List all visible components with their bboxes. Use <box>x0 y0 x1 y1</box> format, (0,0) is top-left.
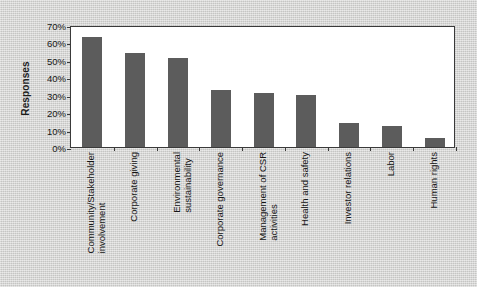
y-axis-tick-label: 0% <box>36 143 66 154</box>
y-axis-title-text: Responses <box>20 61 31 115</box>
y-axis-tick-label: 60% <box>36 38 66 49</box>
x-axis-category-label-text: Environmentalsustainability <box>171 152 193 213</box>
x-axis-tick-mark <box>370 147 371 151</box>
y-axis-tick-mark <box>67 149 71 150</box>
label-line-1: Community/Stakeholder <box>85 152 96 253</box>
bar <box>168 58 188 147</box>
label-line-1: Environmental <box>171 152 182 213</box>
x-axis-category-label-text: Labor <box>385 152 396 176</box>
y-axis-tick-labels: 70%60%50%40%30%20%10%0% <box>36 21 66 149</box>
x-axis-category-labels: Community/StakeholderinvolvementCorporat… <box>70 152 455 284</box>
label-line-1: Labor <box>385 152 396 176</box>
y-axis-tick-mark <box>67 27 71 28</box>
x-axis-category-label-text: Health and safety <box>299 152 310 226</box>
y-axis-tick-label: 30% <box>36 90 66 101</box>
bar <box>296 95 316 147</box>
bar <box>254 93 274 147</box>
y-axis-tick-mark <box>67 132 71 133</box>
label-line-1: Management of CSR <box>257 152 268 241</box>
y-axis-tick-label: 50% <box>36 55 66 66</box>
x-axis-category-label: Human rights <box>428 152 477 282</box>
label-line-1: Investor relations <box>342 152 353 224</box>
label-line-1: Human rights <box>428 152 439 209</box>
bar <box>425 138 445 147</box>
y-axis-tick-label: 20% <box>36 108 66 119</box>
y-axis-tick-mark <box>67 97 71 98</box>
y-axis-tick-label: 70% <box>36 21 66 32</box>
y-axis-tick-mark <box>67 114 71 115</box>
bar <box>125 53 145 147</box>
bar <box>339 123 359 147</box>
x-axis-tick-mark <box>114 147 115 151</box>
x-axis-tick-mark <box>413 147 414 151</box>
y-axis-tick-mark <box>67 44 71 45</box>
chart-page: Responses 70%60%50%40%30%20%10%0% Commun… <box>0 0 477 287</box>
y-axis-tick-label: 10% <box>36 125 66 136</box>
x-axis-category-label-text: Community/Stakeholderinvolvement <box>85 152 107 253</box>
label-line-2: sustainability <box>182 152 193 213</box>
y-axis-title: Responses <box>14 48 36 128</box>
label-line-2: activities <box>268 152 279 241</box>
x-axis-tick-mark <box>242 147 243 151</box>
label-line-1: Health and safety <box>299 152 310 226</box>
x-axis-tick-mark <box>328 147 329 151</box>
x-axis-category-label-text: Corporate governance <box>214 152 225 247</box>
bar <box>211 90 231 148</box>
x-axis-category-label-text: Corporate giving <box>128 152 139 222</box>
x-axis-category-label-text: Human rights <box>428 152 439 209</box>
label-line-1: Corporate governance <box>214 152 225 247</box>
y-axis-tick-label: 40% <box>36 73 66 84</box>
x-axis-category-label-text: Investor relations <box>342 152 353 224</box>
x-axis-category-label-text: Management of CSRactivities <box>257 152 279 241</box>
x-axis-category-label: Labor <box>385 152 409 282</box>
label-line-2: involvement <box>96 152 107 253</box>
label-line-1: Corporate giving <box>128 152 139 222</box>
x-axis-tick-mark <box>456 147 457 151</box>
x-axis-tick-mark <box>285 147 286 151</box>
y-axis-tick-mark <box>67 62 71 63</box>
bar <box>82 37 102 147</box>
plot-area <box>70 26 455 148</box>
bar-series <box>71 27 454 147</box>
x-axis-tick-mark <box>157 147 158 151</box>
x-axis-tick-mark <box>199 147 200 151</box>
bar <box>382 126 402 147</box>
y-axis-tick-mark <box>67 79 71 80</box>
